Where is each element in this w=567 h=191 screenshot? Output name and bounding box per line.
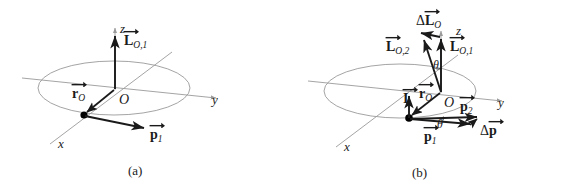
vector-label-angular-momentum-final: L O,2 <box>386 40 409 57</box>
delta-symbol: Δ <box>480 123 489 138</box>
vector-arrow-accent: p <box>424 130 432 144</box>
vector-arrow-accent: I <box>403 92 408 106</box>
axis-label-y: y <box>498 96 504 109</box>
vector-label-position: r O <box>419 87 432 104</box>
axis-label-z: z <box>456 24 461 37</box>
vector-momentum-initial <box>85 116 144 128</box>
axis-label-x: x <box>344 140 350 153</box>
vector-arrow-accent: r <box>72 87 78 101</box>
axis-label-y: y <box>212 93 218 106</box>
vector-label-angular-momentum-initial: L O,1 <box>450 40 473 57</box>
vector-label-momentum-initial: p 1 <box>150 128 163 145</box>
angle-label-top: θ <box>433 59 439 71</box>
origin-label: O <box>444 96 454 110</box>
vector-label-momentum-final: p 2 <box>460 100 473 117</box>
vector-arrow-accent: p <box>489 124 497 138</box>
vector-arrow-accent: L <box>425 14 434 28</box>
vector-arrow-accent: L <box>386 40 395 54</box>
panel-caption-b: (b) <box>412 166 427 179</box>
vector-position <box>87 90 114 112</box>
vector-arrow-accent: L <box>450 40 459 54</box>
vector-label-position: r O <box>72 87 85 104</box>
angle-label-bottom: θ <box>437 118 443 130</box>
vector-arrow-accent: p <box>150 128 158 142</box>
vector-label-momentum-change: Δ p <box>480 124 497 138</box>
particle-dot <box>80 111 87 118</box>
vector-label-angular-momentum-change: Δ L O <box>416 14 441 31</box>
vector-arrow-accent: p <box>460 100 468 114</box>
vector-label-momentum-initial: p 1 <box>424 130 437 147</box>
vector-arrow-accent: L <box>124 34 133 48</box>
origin-label: O <box>119 93 129 107</box>
delta-symbol: Δ <box>416 13 425 28</box>
vector-angular-momentum-change <box>421 33 440 37</box>
panel-caption-a: (a) <box>128 164 142 177</box>
vector-label-angular-momentum-initial: L O,1 <box>124 34 147 51</box>
orbital-plane-ellipse <box>38 61 190 115</box>
vector-momentum-change <box>470 119 477 125</box>
axis-label-x: x <box>58 137 64 150</box>
vector-arrow-accent: r <box>419 87 425 101</box>
vector-label-impulse: I <box>403 92 408 106</box>
panel-a <box>22 28 216 144</box>
